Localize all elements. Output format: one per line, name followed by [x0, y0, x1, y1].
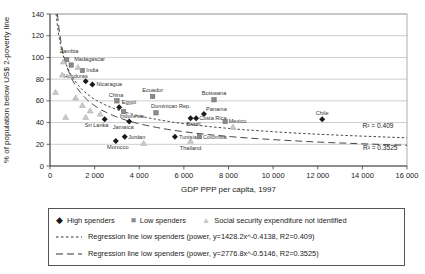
square-marker-icon: ■: [131, 216, 136, 224]
point-zambia: [65, 57, 69, 61]
point-china: [115, 99, 119, 103]
x-tick-label: 4 000: [130, 171, 149, 180]
point-label-chile: Chile: [316, 110, 329, 116]
legend-label-high-spenders: High spenders: [67, 216, 115, 225]
point-botswana: [212, 98, 216, 102]
point-mexico: [223, 119, 227, 123]
point-triangle: [79, 102, 85, 107]
point-triangle: [97, 111, 103, 116]
point-label-jamaica: Jamaica: [113, 124, 135, 130]
point-chile: [319, 116, 325, 122]
x-tick-label: 16 000: [396, 171, 419, 180]
point-triangle: [230, 124, 236, 129]
legend-item-social-security: ▲ Social security expenditure not identi…: [202, 216, 347, 225]
point-triangle: [141, 140, 147, 145]
r-squared-annotation-1: R² = 0.409: [363, 122, 394, 129]
y-tick-label: 0: [40, 162, 44, 171]
point-label-colombia: Colombia: [203, 134, 228, 140]
point-colombia: [197, 134, 201, 138]
point-triangle: [63, 114, 69, 119]
legend-label-regression-1: Regression line low spenders (power, y=1…: [88, 232, 315, 241]
r-squared-annotation-2: R² = 0.3525: [363, 144, 398, 151]
point-triangle: [75, 64, 81, 69]
point-triangle: [53, 89, 59, 94]
point-ecuador: [150, 94, 154, 98]
diamond-marker-icon: ◆: [56, 216, 63, 224]
point-triangle: [73, 95, 79, 100]
legend-label-social-security: Social security expenditure not identifi…: [214, 216, 346, 225]
x-axis-title: GDP PPP per capita, 1997: [181, 185, 276, 194]
legend-label-low-spenders: Low spenders: [140, 216, 186, 225]
legend-item-low-spenders: ■ Low spenders: [131, 216, 186, 225]
legend-box: ◆ High spenders ■ Low spenders ▲ Social …: [48, 208, 405, 266]
point-triangle: [83, 114, 89, 119]
point-label-zambia: Zambia: [60, 48, 80, 54]
figure: 02 0004 0006 0008 00010 00012 00014 0001…: [0, 0, 425, 274]
triangle-marker-icon: ▲: [202, 216, 210, 224]
y-tick-label: 40: [36, 118, 44, 127]
legend-regression-row-2: Regression line low spenders (power, y=2…: [56, 249, 397, 258]
long-dash-line-icon: [56, 251, 82, 257]
y-tick-label: 20: [36, 140, 44, 149]
x-tick-label: 0: [48, 171, 52, 180]
point-label-indonesia: Indonesia: [120, 113, 145, 119]
point-label-madagascar: Madagascar: [74, 56, 105, 62]
y-tick-label: 100: [31, 53, 44, 62]
x-tick-label: 12 000: [306, 171, 329, 180]
point-label-india: India: [86, 67, 99, 73]
x-tick-label: 2 000: [85, 171, 104, 180]
point-dominican-rep-: [154, 111, 158, 115]
point-label-china: China: [109, 92, 125, 98]
point-label-honduras: Honduras: [63, 73, 87, 79]
point-label-morocco: Morocco: [107, 144, 128, 150]
point-label-nicaragua: Nicaragua: [96, 81, 122, 87]
point-jordan: [122, 134, 128, 140]
y-tick-label: 140: [31, 10, 44, 19]
legend-regression-row-1: Regression line low spenders (power, y=1…: [56, 232, 397, 241]
point-label-ecuador: Ecuador: [142, 87, 163, 93]
point-label-jordan: Jordan: [128, 134, 145, 140]
point-label-mexico: Mexico: [229, 118, 247, 124]
fine-dash-line-icon: [56, 234, 82, 240]
x-tick-label: 8 000: [219, 171, 238, 180]
point-label-dominican-rep-: Dominican Rep.: [151, 103, 191, 109]
legend-label-regression-2: Regression line low spenders (power, y=2…: [88, 249, 319, 258]
point-madagascar: [69, 63, 73, 67]
point-label-egypt: Egypt: [122, 99, 137, 105]
point-tunisia: [172, 134, 178, 140]
x-tick-label: 10 000: [262, 171, 285, 180]
legend-series-row: ◆ High spenders ■ Low spenders ▲ Social …: [56, 216, 397, 225]
y-tick-label: 60: [36, 96, 44, 105]
point-label-thailand: Thailand: [180, 145, 201, 151]
point-nicaragua: [89, 82, 95, 88]
x-tick-label: 14 000: [351, 171, 374, 180]
y-axis-title: % of population below US$ 2-poverty line: [2, 16, 11, 163]
point-label-botswana: Botswana: [202, 90, 227, 96]
point-triangle: [87, 108, 93, 113]
x-tick-label: 6 000: [174, 171, 193, 180]
point-label-brazil: Brazil: [187, 121, 201, 127]
point-label-panama: Panama: [206, 106, 228, 112]
scatter-plot: 02 0004 0006 0008 00010 00012 00014 0001…: [0, 0, 425, 204]
y-tick-label: 80: [36, 75, 44, 84]
legend-item-high-spenders: ◆ High spenders: [56, 216, 115, 225]
point-label-tunisia: Tunisia: [179, 134, 198, 140]
point-label-sri-lanka: Sri Lanka: [85, 122, 110, 128]
y-tick-label: 120: [31, 31, 44, 40]
